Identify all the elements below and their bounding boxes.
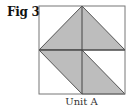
unit-caption: Unit A bbox=[0, 96, 129, 107]
unit-a-diagram bbox=[0, 0, 129, 109]
